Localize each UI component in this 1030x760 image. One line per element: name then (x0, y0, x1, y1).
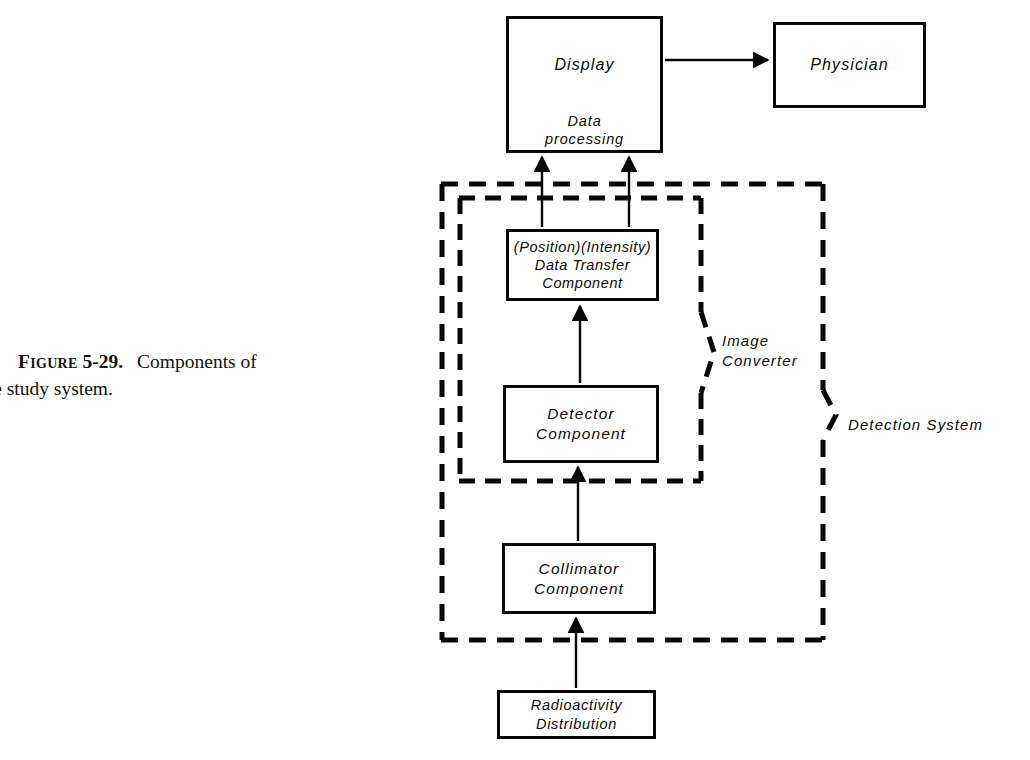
box-display[interactable]: Display (506, 16, 663, 153)
box-radioactivity-line1: Radioactivity (531, 696, 622, 714)
figure-caption-label: Figure (18, 351, 78, 372)
region-label-detection-system: Detection System (848, 415, 983, 435)
box-collimator-line1: Collimator (539, 559, 620, 579)
box-detector-line2: Component (536, 424, 626, 444)
region-label-detection-system-text: Detection System (848, 416, 983, 433)
box-data-transfer-line2: Data Transfer (535, 256, 630, 274)
box-radioactivity-distribution[interactable]: Radioactivity Distribution (497, 690, 656, 739)
region-label-image-converter-line2: Converter (722, 352, 798, 369)
box-collimator-component[interactable]: Collimator Component (502, 543, 656, 614)
box-physician-label: Physician (810, 55, 888, 75)
box-collimator-line2: Component (534, 579, 624, 599)
box-display-label: Display (554, 55, 614, 75)
figure-caption-text-line1: Components of (137, 351, 257, 372)
box-radioactivity-line2: Distribution (536, 715, 617, 733)
box-data-transfer-line1: (Position)(Intensity) (514, 238, 652, 256)
box-data-transfer-component[interactable]: (Position)(Intensity) Data Transfer Comp… (506, 229, 659, 301)
figure-caption: Figure 5-29.Components of the study syst… (18, 348, 400, 402)
region-label-image-converter: Image Converter (722, 331, 798, 370)
box-detector-component[interactable]: Detector Component (503, 385, 659, 463)
box-data-transfer-line3: Component (542, 274, 622, 292)
figure-canvas: Display Data processing Physician (Posit… (0, 0, 1030, 760)
figure-caption-text-line2: the study system. (0, 375, 400, 402)
box-detector-line1: Detector (547, 404, 614, 424)
box-physician[interactable]: Physician (773, 22, 926, 108)
figure-caption-number: 5-29. (82, 351, 123, 372)
region-label-image-converter-line1: Image (722, 332, 769, 349)
